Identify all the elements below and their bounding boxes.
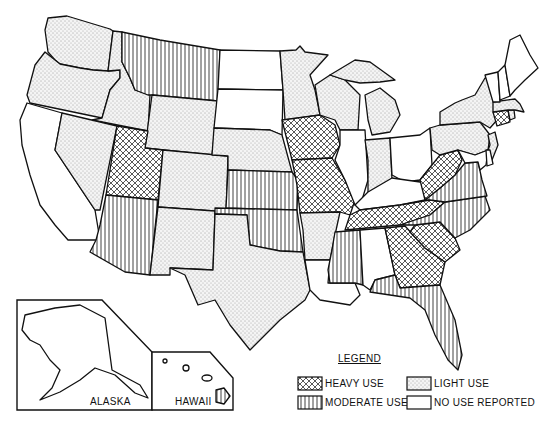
state-CT [493, 110, 510, 126]
legend-label-heavy: HEAVY USE [325, 378, 384, 389]
us-usage-map: ALASKA HAWAII LEGEND HEAVY USE LIGHT USE… [0, 0, 548, 426]
island-maui [202, 375, 212, 381]
island-oahu [183, 365, 189, 371]
legend-swatch-moderate [298, 396, 322, 409]
alaska-label: ALASKA [90, 396, 131, 407]
hawaii-label: HAWAII [175, 396, 212, 407]
legend-item-light: LIGHT USE [407, 377, 489, 390]
state-KS [226, 170, 298, 210]
state-RI [508, 110, 515, 120]
legend-label-moderate: MODERATE USE [325, 397, 408, 408]
legend-title: LEGEND [338, 353, 381, 364]
legend-swatch-none [407, 396, 431, 409]
state-FL [370, 275, 462, 370]
legend: LEGEND HEAVY USE LIGHT USE MODERATE USE … [298, 353, 535, 409]
alaska-inset: ALASKA [17, 300, 152, 410]
legend-item-none: NO USE REPORTED [407, 396, 535, 409]
legend-swatch-heavy [298, 377, 322, 390]
state-ME [505, 35, 538, 96]
state-MT [122, 32, 220, 101]
hawaii-inset: HAWAII [152, 352, 233, 410]
legend-label-light: LIGHT USE [434, 378, 489, 389]
legend-item-heavy: HEAVY USE [298, 377, 384, 390]
legend-label-none: NO USE REPORTED [434, 397, 535, 408]
state-ND [218, 50, 283, 90]
state-WY [145, 95, 218, 155]
legend-swatch-light [407, 377, 431, 390]
island-kauai [163, 359, 167, 363]
state-CO [158, 150, 228, 212]
state-NM [150, 207, 215, 275]
state-IA [282, 115, 340, 160]
legend-item-moderate: MODERATE USE [298, 396, 408, 409]
